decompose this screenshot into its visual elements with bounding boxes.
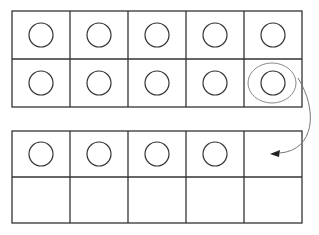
counter-circle-icon [29,23,53,47]
counter-circle-icon [261,23,285,47]
counter-circle-icon [145,71,169,95]
ten-frame-bottom [12,131,302,223]
counter-circle-icon [261,71,285,95]
counter-circle-icon [87,71,111,95]
counter-circle-icon [87,23,111,47]
counter-circle-icon [145,142,169,166]
counter-circle-icon [203,23,227,47]
ten-frame-top [12,11,302,107]
counter-circle-icon [29,71,53,95]
ten-frame-diagram [0,0,319,235]
counter-circle-icon [203,71,227,95]
arrowhead-icon [270,150,280,157]
counter-circle-icon [203,142,227,166]
highlight-ellipse [248,63,296,103]
counter-circle-icon [29,142,53,166]
counter-circle-icon [145,23,169,47]
counter-circle-icon [87,142,111,166]
